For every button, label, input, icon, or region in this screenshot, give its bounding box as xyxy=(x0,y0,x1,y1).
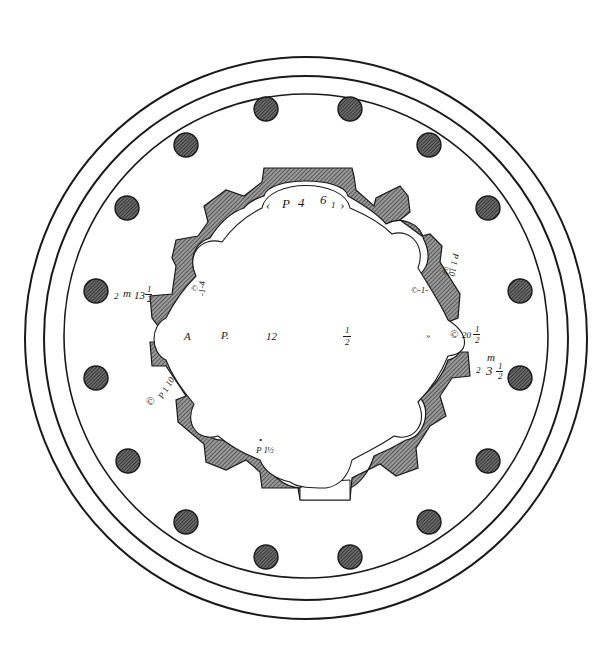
label-2: 2 xyxy=(476,366,481,375)
frac-num: 1 xyxy=(147,285,152,294)
scroll-mark-icon: © xyxy=(146,396,154,407)
frac-num: 1 xyxy=(475,325,480,334)
column-16 xyxy=(338,545,362,569)
column-14 xyxy=(417,510,441,534)
column-5 xyxy=(115,196,139,220)
column-13 xyxy=(174,510,198,534)
label-4: 4 xyxy=(298,196,305,209)
label-sub-1: 1 xyxy=(331,201,336,210)
dot-mark: • xyxy=(259,436,262,445)
column-6 xyxy=(476,196,500,220)
column-11 xyxy=(116,449,140,473)
label-3: 3 xyxy=(486,364,493,377)
niche-text: -1-4 xyxy=(198,281,207,296)
column-8 xyxy=(508,279,532,303)
small-frac: ½ xyxy=(267,446,274,455)
arrow-left-icon: ‹ xyxy=(266,198,270,211)
column-4 xyxy=(417,133,441,157)
label-12: 12 xyxy=(266,331,277,342)
frac-den: 2 xyxy=(498,372,503,381)
column-2 xyxy=(338,97,362,121)
column-12 xyxy=(476,449,500,473)
label-a: A xyxy=(184,331,191,342)
column-7 xyxy=(84,279,108,303)
frac-num: 1 xyxy=(498,362,503,371)
scroll-mark-icon: © xyxy=(450,329,458,340)
temple-ground-plan xyxy=(0,0,610,658)
label-13: 13 xyxy=(134,290,145,301)
label-m: m xyxy=(123,288,131,299)
column-15 xyxy=(254,545,278,569)
label-m: m xyxy=(487,352,495,363)
column-9 xyxy=(84,366,108,390)
label-20: 20 xyxy=(462,331,471,340)
column-3 xyxy=(174,133,198,157)
label-arrow: » xyxy=(426,331,431,340)
column-10 xyxy=(508,366,532,390)
label-half-num: 1 xyxy=(345,326,350,335)
frac-den: 2 xyxy=(147,295,152,304)
label-2: 2 xyxy=(114,292,119,301)
label-p-dot: P. xyxy=(221,330,229,341)
small-mark: ©-1- xyxy=(411,286,428,295)
label-half-den: 2 xyxy=(345,338,350,347)
column-1 xyxy=(254,97,278,121)
scroll-mark-icon: 6 xyxy=(320,193,327,206)
label-p: P xyxy=(282,197,290,210)
arrow-right-icon: › xyxy=(340,198,344,211)
frac-den: 2 xyxy=(475,336,480,345)
